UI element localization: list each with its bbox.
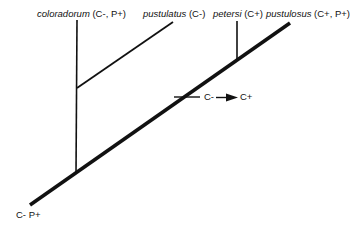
taxon-label-petersi: petersi (C+) <box>213 9 263 19</box>
transition-to-label: C+ <box>240 92 252 102</box>
taxon-traits: (C+) <box>244 8 263 19</box>
transition-from-label: C- <box>204 92 214 102</box>
taxon-traits: (C-) <box>189 8 205 19</box>
arrow-head-icon <box>226 94 238 102</box>
coloradorum-branch-line <box>76 20 77 174</box>
taxon-traits: (C+, P+) <box>314 8 350 19</box>
taxon-label-pustulosus: pustulosus (C+, P+) <box>266 9 350 19</box>
taxon-name: coloradorum <box>37 8 90 19</box>
main-trunk-line <box>30 23 290 205</box>
pustulatus-branch-line <box>77 22 173 88</box>
cladogram-lines <box>0 0 357 229</box>
taxon-name: pustulosus <box>266 8 311 19</box>
taxon-traits: (C-, P+) <box>92 8 126 19</box>
taxon-label-coloradorum: coloradorum (C-, P+) <box>37 9 126 19</box>
taxon-name: petersi <box>213 8 242 19</box>
taxon-label-pustulatus: pustulatus (C-) <box>143 9 205 19</box>
taxon-name: pustulatus <box>143 8 186 19</box>
root-state-label: C- P+ <box>16 210 41 220</box>
